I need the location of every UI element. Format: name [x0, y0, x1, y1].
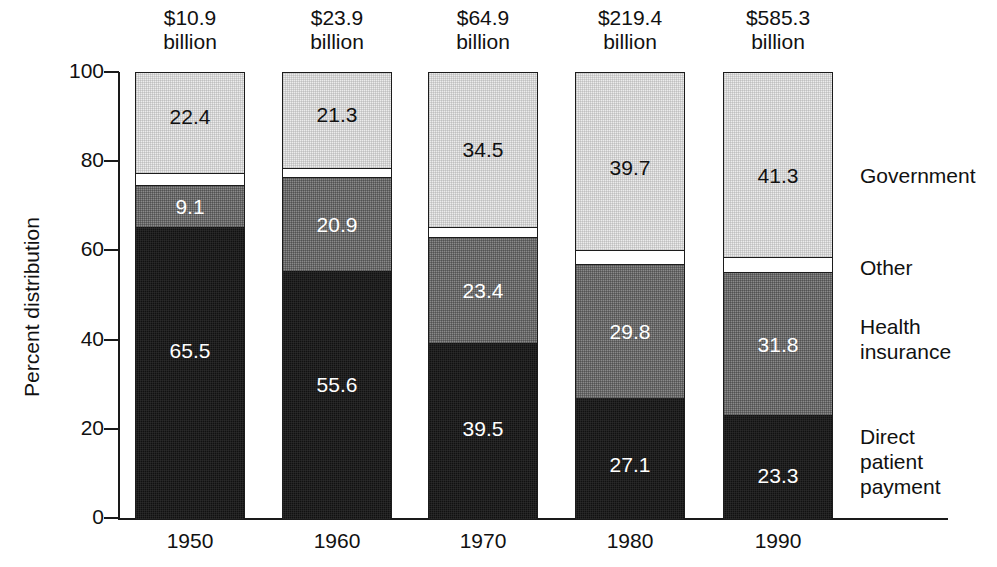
legend-label-direct-line3: payment [860, 475, 997, 500]
y-tick-mark-0 [104, 517, 119, 519]
y-tick-label-100: 100 [46, 60, 104, 81]
y-tick-100: 100 [0, 71, 104, 73]
y-tick-mark-60 [104, 249, 119, 251]
bar-segment-government-1980[interactable]: 39.7 [576, 73, 684, 250]
y-tick-label-40: 40 [46, 328, 104, 349]
bar-segment-other-1950[interactable] [136, 173, 244, 186]
bar-value-health-insurance-1950: 9.1 [175, 196, 204, 217]
bar-total-amount-1970: $64.9 [414, 6, 552, 30]
bar-value-government-1960: 21.3 [317, 104, 358, 125]
bar-value-government-1950: 22.4 [170, 106, 211, 127]
bar-segment-direct-patient-payment-1960[interactable]: 55.6 [283, 271, 391, 519]
bar-value-health-insurance-1960: 20.9 [317, 214, 358, 235]
y-tick-label-80: 80 [46, 149, 104, 170]
bar-value-government-1980: 39.7 [610, 157, 651, 178]
bar-value-health-insurance-1990: 31.8 [758, 334, 799, 355]
bar-stack-1950[interactable]: 22.49.165.5 [135, 72, 245, 518]
y-tick-20: 20 [0, 428, 104, 430]
stacked-bar-chart: Percent distribution 100806040200 $10.9b… [0, 0, 997, 567]
bar-segment-government-1970[interactable]: 34.5 [429, 73, 537, 227]
bar-segment-other-1960[interactable] [283, 168, 391, 178]
bar-value-government-1990: 41.3 [758, 165, 799, 186]
x-tick-label-1970: 1970 [412, 530, 554, 551]
bar-segment-health-insurance-1970[interactable]: 23.4 [429, 238, 537, 342]
bar-group-1960: $23.9billion21.320.955.61960 [282, 0, 392, 567]
x-tick-label-1950: 1950 [119, 530, 261, 551]
legend-label-government: Government [860, 164, 976, 187]
bar-group-1990: $585.3billion41.331.823.31990 [723, 0, 833, 567]
bar-segment-direct-patient-payment-1950[interactable]: 65.5 [136, 227, 244, 519]
y-tick-40: 40 [0, 339, 104, 341]
legend-label-direct-line2: patient [860, 450, 997, 475]
bar-segment-other-1980[interactable] [576, 250, 684, 265]
bar-total-unit-1970: billion [414, 30, 552, 54]
bar-total-label-1950: $10.9billion [121, 6, 259, 55]
bar-value-health-insurance-1980: 29.8 [610, 321, 651, 342]
bar-segment-government-1950[interactable]: 22.4 [136, 73, 244, 173]
legend-label-health-line1: Health [860, 315, 997, 340]
bar-total-amount-1960: $23.9 [268, 6, 406, 30]
bar-total-unit-1950: billion [121, 30, 259, 54]
y-axis-line [118, 72, 120, 519]
bar-segment-direct-patient-payment-1970[interactable]: 39.5 [429, 343, 537, 519]
bar-total-label-1960: $23.9billion [268, 6, 406, 55]
bar-segment-direct-patient-payment-1990[interactable]: 23.3 [724, 415, 832, 519]
y-tick-mark-80 [104, 160, 119, 162]
y-tick-label-0: 0 [46, 506, 104, 527]
y-tick-mark-20 [104, 428, 119, 430]
legend-entry-government: Government [860, 164, 997, 189]
bar-group-1980: $219.4billion39.729.827.11980 [575, 0, 685, 567]
bar-segment-other-1970[interactable] [429, 227, 537, 239]
legend-entry-health-insurance: Health insurance [860, 315, 997, 365]
legend-label-health-line2: insurance [860, 340, 997, 365]
bar-segment-government-1960[interactable]: 21.3 [283, 73, 391, 168]
bar-stack-1970[interactable]: 34.523.439.5 [428, 72, 538, 518]
bar-total-label-1990: $585.3billion [709, 6, 847, 55]
legend-entry-other: Other [860, 256, 997, 281]
bar-value-direct-patient-payment-1950: 65.5 [170, 340, 211, 361]
bar-segment-government-1990[interactable]: 41.3 [724, 73, 832, 257]
x-tick-label-1960: 1960 [266, 530, 408, 551]
bar-segment-direct-patient-payment-1980[interactable]: 27.1 [576, 398, 684, 519]
bar-stack-1980[interactable]: 39.729.827.1 [575, 72, 685, 518]
bar-total-amount-1980: $219.4 [561, 6, 699, 30]
x-tick-label-1990: 1990 [707, 530, 849, 551]
bar-total-label-1970: $64.9billion [414, 6, 552, 55]
legend-entry-direct-patient-payment: Direct patient payment [860, 425, 997, 499]
bar-total-unit-1990: billion [709, 30, 847, 54]
bar-total-amount-1950: $10.9 [121, 6, 259, 30]
y-tick-80: 80 [0, 160, 104, 162]
bar-total-label-1980: $219.4billion [561, 6, 699, 55]
y-tick-mark-40 [104, 339, 119, 341]
bar-group-1970: $64.9billion34.523.439.51970 [428, 0, 538, 567]
bar-total-amount-1990: $585.3 [709, 6, 847, 30]
y-tick-label-60: 60 [46, 238, 104, 259]
bar-total-unit-1960: billion [268, 30, 406, 54]
bar-segment-health-insurance-1960[interactable]: 20.9 [283, 178, 391, 271]
bar-group-1950: $10.9billion22.49.165.51950 [135, 0, 245, 567]
bar-value-direct-patient-payment-1980: 27.1 [610, 454, 651, 475]
bar-segment-health-insurance-1990[interactable]: 31.8 [724, 273, 832, 415]
bar-stack-1960[interactable]: 21.320.955.6 [282, 72, 392, 518]
y-tick-60: 60 [0, 249, 104, 251]
bar-segment-health-insurance-1980[interactable]: 29.8 [576, 265, 684, 398]
bar-value-direct-patient-payment-1970: 39.5 [463, 418, 504, 439]
legend: Government Other Health insurance Direct… [860, 0, 997, 567]
bar-segment-health-insurance-1950[interactable]: 9.1 [136, 186, 244, 227]
y-tick-label-20: 20 [46, 417, 104, 438]
x-tick-label-1980: 1980 [559, 530, 701, 551]
bar-total-unit-1980: billion [561, 30, 699, 54]
y-tick-mark-100 [104, 71, 119, 73]
bar-value-direct-patient-payment-1990: 23.3 [758, 465, 799, 486]
bar-segment-other-1990[interactable] [724, 257, 832, 273]
bar-stack-1990[interactable]: 41.331.823.3 [723, 72, 833, 518]
legend-label-other: Other [860, 256, 913, 279]
bar-value-health-insurance-1970: 23.4 [463, 280, 504, 301]
bar-value-direct-patient-payment-1960: 55.6 [317, 374, 358, 395]
legend-label-direct-line1: Direct [860, 425, 997, 450]
y-tick-0: 0 [0, 517, 104, 519]
bar-value-government-1970: 34.5 [463, 139, 504, 160]
